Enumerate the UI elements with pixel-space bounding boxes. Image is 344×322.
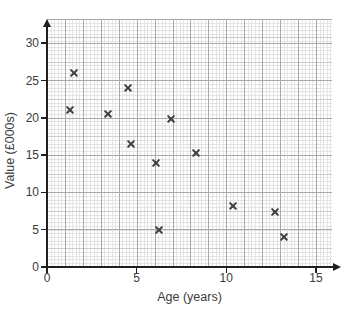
y-tick-mark (41, 192, 46, 194)
data-point-x-marker (103, 109, 113, 119)
y-tick-mark (41, 80, 46, 82)
x-axis-line (46, 266, 334, 268)
data-point-x-marker (151, 158, 161, 168)
plot-area (47, 19, 332, 267)
data-point-x-marker (154, 225, 164, 235)
x-tick-label: 5 (125, 271, 149, 285)
data-point-x-marker (65, 105, 75, 115)
x-tick-label: 15 (304, 271, 328, 285)
x-axis-arrow-icon (333, 263, 341, 271)
y-axis-line (46, 26, 48, 268)
y-tick-mark (41, 266, 46, 268)
data-point-x-marker (126, 139, 136, 149)
y-tick-mark (41, 42, 46, 44)
y-tick-label: 0 (13, 260, 39, 274)
y-tick-label: 25 (13, 74, 39, 88)
x-tick-label: 10 (214, 271, 238, 285)
data-point-x-marker (270, 207, 280, 217)
y-tick-mark (41, 229, 46, 231)
y-axis-title: Value (£000s) (3, 101, 18, 201)
data-point-x-marker (69, 68, 79, 78)
scatter-chart: 051015051015202530 Age (years) Value (£0… (0, 0, 344, 322)
data-point-x-marker (191, 148, 201, 158)
x-axis-title: Age (years) (47, 290, 332, 304)
data-point-x-marker (166, 114, 176, 124)
y-axis-arrow-icon (43, 19, 51, 27)
data-point-x-marker (279, 232, 289, 242)
data-point-x-marker (228, 201, 238, 211)
y-tick-mark (41, 154, 46, 156)
y-tick-label: 5 (13, 223, 39, 237)
y-tick-mark (41, 117, 46, 119)
data-point-x-marker (123, 83, 133, 93)
y-tick-label: 30 (13, 36, 39, 50)
